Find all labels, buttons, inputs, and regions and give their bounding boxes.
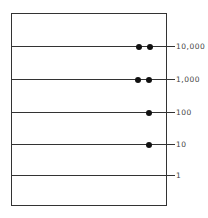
level-label: 1,000 bbox=[176, 75, 200, 84]
dot-marker bbox=[147, 44, 153, 50]
level-label: 10,000 bbox=[176, 42, 205, 51]
dot-marker bbox=[136, 44, 142, 50]
level-line bbox=[11, 175, 175, 176]
dot-marker bbox=[146, 77, 152, 83]
dot-marker bbox=[135, 77, 141, 83]
diagram-frame bbox=[11, 13, 167, 206]
level-label: 10 bbox=[176, 140, 187, 149]
level-label: 1 bbox=[176, 171, 181, 180]
dot-marker bbox=[146, 110, 152, 116]
dot-marker bbox=[146, 142, 152, 148]
level-label: 100 bbox=[176, 108, 192, 117]
